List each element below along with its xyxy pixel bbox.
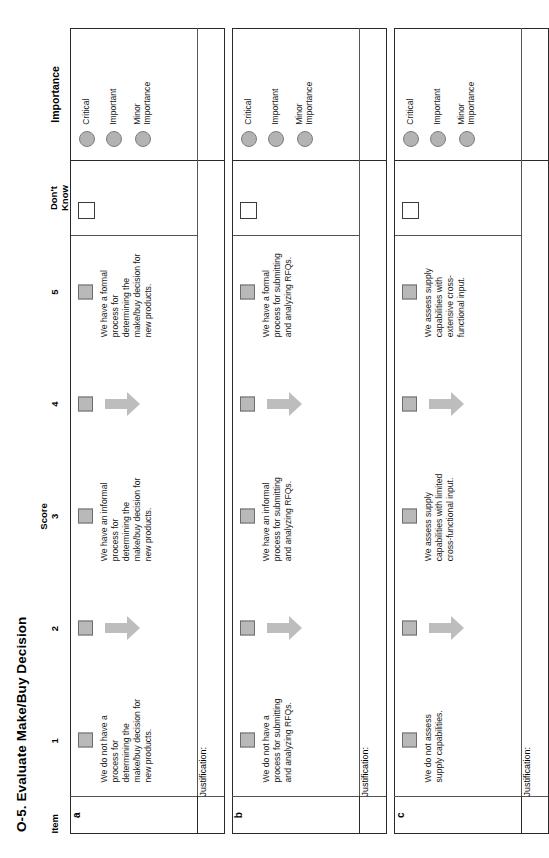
justification-importance-spacer	[198, 29, 225, 161]
importance-label: Minor Importance	[133, 69, 153, 125]
header-score-5: 5	[49, 236, 71, 348]
row-gap	[387, 29, 395, 834]
importance-label: Important	[271, 88, 281, 124]
radio-icon	[241, 131, 257, 147]
score-box-5[interactable]	[402, 285, 417, 300]
justification-importance-spacer	[360, 29, 387, 161]
importance-label: Minor Importance	[457, 69, 477, 125]
justification-row: Justification:	[360, 29, 387, 834]
header-dont-know-line1: Don't	[48, 186, 59, 210]
radio-icon	[268, 131, 284, 147]
radio-icon	[403, 131, 419, 147]
importance-option-minor[interactable]: Minor Importance	[295, 29, 315, 147]
importance-label: Critical	[244, 99, 254, 125]
header-dont-know: Don't Know	[49, 160, 71, 236]
score-box-2[interactable]	[240, 621, 255, 636]
importance-option-important[interactable]: Important	[268, 29, 284, 147]
down-arrow-icon	[429, 391, 465, 417]
score-box-5[interactable]	[78, 285, 93, 300]
down-arrow-icon	[105, 615, 141, 641]
table-row: a We do not have a process for determini…	[71, 29, 198, 834]
header-row: Item 1 2 3 4 5 Don't Know Importance	[49, 29, 71, 834]
justification-label-a[interactable]: Justification:	[198, 160, 225, 797]
score-box-5[interactable]	[240, 285, 255, 300]
radio-icon	[430, 131, 446, 147]
importance-label: Critical	[82, 99, 92, 125]
header-group-row: Score	[38, 29, 49, 834]
importance-option-critical[interactable]: Critical	[79, 29, 95, 147]
dont-know-checkbox[interactable]	[240, 202, 257, 219]
score-box-2[interactable]	[78, 621, 93, 636]
down-arrow-icon	[429, 615, 465, 641]
importance-cell-c: Critical Important Minor Importance	[395, 29, 522, 161]
justification-label-b[interactable]: Justification:	[360, 160, 387, 797]
row-id-c: c	[395, 797, 522, 834]
table-row: c We do not assess supply capabilities. …	[395, 29, 522, 834]
header-score-4: 4	[49, 348, 71, 460]
down-arrow-icon	[267, 391, 303, 417]
score-box-4[interactable]	[402, 397, 417, 412]
statement-high-a: We have a formal process for determining…	[99, 248, 154, 338]
importance-label: Important	[109, 88, 119, 124]
score-cell-a: We do not have a process for determining…	[71, 236, 198, 797]
header-score-group: Score	[38, 236, 49, 797]
header-score-2: 2	[49, 573, 71, 685]
header-dont-know-line2: Know	[59, 185, 70, 211]
radio-icon	[459, 131, 475, 147]
importance-label: Minor Importance	[295, 69, 315, 125]
importance-option-important[interactable]: Important	[106, 29, 122, 147]
importance-cell-a: Critical Important Minor Importance	[71, 29, 198, 161]
justification-label-c[interactable]: Justification:	[522, 160, 549, 797]
row-id-b: b	[233, 797, 360, 834]
score-box-3[interactable]	[78, 509, 93, 524]
justification-row: Justification:	[198, 29, 225, 834]
dont-know-cell-b	[233, 160, 360, 236]
dont-know-cell-a	[71, 160, 198, 236]
score-box-4[interactable]	[240, 397, 255, 412]
score-box-1[interactable]	[78, 733, 93, 748]
importance-option-minor[interactable]: Minor Importance	[457, 29, 477, 147]
justification-item-spacer	[198, 797, 225, 834]
radio-icon	[79, 131, 95, 147]
importance-option-important[interactable]: Important	[430, 29, 446, 147]
statement-high-c: We assess supply capabilities with exten…	[423, 248, 467, 338]
importance-option-critical[interactable]: Critical	[241, 29, 257, 147]
statement-mid-b: We have an informal process for submitti…	[261, 472, 294, 562]
importance-label: Critical	[406, 99, 416, 125]
importance-option-minor[interactable]: Minor Importance	[133, 29, 153, 147]
score-box-1[interactable]	[402, 733, 417, 748]
score-box-4[interactable]	[78, 397, 93, 412]
down-arrow-icon	[267, 615, 303, 641]
justification-row: Justification:	[522, 29, 549, 834]
score-cell-b: We do not have a process for submitting …	[233, 236, 360, 797]
statement-mid-a: We have an informal process for determin…	[99, 472, 154, 562]
header-importance: Importance	[49, 29, 71, 161]
header-spacer	[38, 797, 49, 834]
statement-high-b: We have a formal process for submitting …	[261, 248, 294, 338]
score-box-3[interactable]	[402, 509, 417, 524]
justification-importance-spacer	[522, 29, 549, 161]
score-box-3[interactable]	[240, 509, 255, 524]
radio-icon	[297, 131, 313, 147]
header-score-1: 1	[49, 685, 71, 797]
row-gap	[225, 29, 233, 834]
row-id-a: a	[71, 797, 198, 834]
statement-low-c: We do not assess supply capabilities.	[423, 693, 445, 783]
table-row: b We do not have a process for submittin…	[233, 29, 360, 834]
importance-cell-b: Critical Important Minor Importance	[233, 29, 360, 161]
score-cell-c: We do not assess supply capabilities. We…	[395, 236, 522, 797]
importance-label: Important	[433, 88, 443, 124]
statement-low-b: We do not have a process for submitting …	[261, 693, 294, 783]
radio-icon	[135, 131, 151, 147]
statement-low-a: We do not have a process for determining…	[99, 693, 154, 783]
score-box-1[interactable]	[240, 733, 255, 748]
dont-know-checkbox[interactable]	[78, 202, 95, 219]
assessment-table: Score Item 1 2 3 4 5 Don't Know Importan…	[38, 28, 549, 834]
statement-mid-c: We assess supply capabilities with limit…	[423, 472, 456, 562]
dont-know-checkbox[interactable]	[402, 202, 419, 219]
header-spacer-imp	[38, 29, 49, 161]
score-box-2[interactable]	[402, 621, 417, 636]
importance-option-critical[interactable]: Critical	[403, 29, 419, 147]
